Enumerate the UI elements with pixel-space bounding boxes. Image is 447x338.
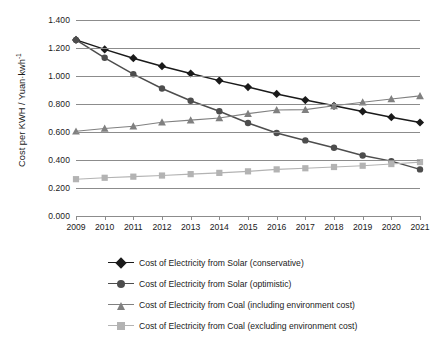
legend-marker-square-icon [108,320,134,332]
series-4 [73,159,423,182]
gridline [76,20,420,21]
x-axis-ticks [76,216,420,221]
y-axis-tick-label: 0.200 [26,183,70,193]
data-point-square [102,175,108,181]
data-point-diamond [101,45,109,53]
x-axis-tick [305,216,306,220]
y-axis-tick-label: 0.600 [26,127,70,137]
legend-marker-diamond-icon [108,257,134,269]
x-axis-tick [248,216,249,220]
y-axis-title: Cost per KWH / Yuan·kwh-1 [15,25,27,195]
data-point-diamond [416,118,424,126]
data-point-circle [73,37,79,43]
legend-item[interactable]: Cost of Electricity from Solar (conserva… [108,252,428,273]
y-axis-tick-label: 1.400 [26,15,70,25]
gridline [76,76,420,77]
gridline [76,104,420,105]
data-point-square [388,161,394,167]
data-point-diamond [215,77,223,85]
data-point-diamond [273,90,281,98]
data-point-square [159,172,165,178]
line-chart: 1.4001.2001.0000.8000.6000.4000.2000.000… [0,0,447,338]
data-point-square [302,165,308,171]
x-axis-tick [162,216,163,220]
gridline [76,160,420,161]
data-point-square [130,174,136,180]
data-point-circle [245,120,251,126]
y-axis-tick-label: 0.400 [26,155,70,165]
series-layer [76,20,420,216]
legend-label: Cost of Electricity from Solar (conserva… [139,258,304,268]
y-axis-tick-label: 0.000 [26,211,70,221]
legend-marker-circle-icon [108,278,134,290]
legend-item[interactable]: Cost of Electricity from Coal (including… [108,294,428,315]
legend-marker [117,302,125,310]
data-point-square [216,170,222,176]
data-point-diamond [158,62,166,70]
data-point-diamond [301,96,309,104]
plot-area [76,20,420,216]
x-axis-tick [391,216,392,220]
legend-marker-triangle-icon [108,299,134,311]
data-point-circle [216,108,222,114]
x-axis-tick [334,216,335,220]
x-axis-tick [219,216,220,220]
legend-item[interactable]: Cost of Electricity from Coal (excluding… [108,315,428,336]
data-point-circle [101,55,107,61]
x-axis-tick [191,216,192,220]
legend-marker [115,257,126,268]
legend-label: Cost of Electricity from Coal (including… [139,300,355,310]
y-axis-tick-labels: 1.4001.2001.0000.8000.6000.4000.2000.000 [24,20,70,216]
data-point-diamond [359,107,367,115]
y-axis-title-text: Cost per KWH / Yuan·kwh [17,59,27,167]
legend-label: Cost of Electricity from Solar (optimist… [139,279,291,289]
y-axis-tick-label: 0.800 [26,99,70,109]
data-point-circle [159,85,165,91]
data-point-circle [302,137,308,143]
y-axis-tick-label: 1.000 [26,71,70,81]
y-axis-title-exponent: -1 [15,53,22,59]
x-axis-tick [363,216,364,220]
x-axis-tick [277,216,278,220]
data-point-circle [331,145,337,151]
chart-legend: Cost of Electricity from Solar (conserva… [108,252,428,336]
data-point-triangle [416,92,424,99]
data-point-circle [417,166,423,172]
legend-label: Cost of Electricity from Coal (excluding… [139,321,357,331]
x-axis-tick-label: 2021 [400,222,440,232]
y-axis-tick-label: 1.200 [26,43,70,53]
legend-marker [117,280,125,288]
data-point-circle [359,152,365,158]
x-axis-tick [133,216,134,220]
x-axis-tick-labels: 2009201020112012201320142015201620172018… [76,222,420,236]
data-point-diamond [244,83,252,91]
data-point-square [274,166,280,172]
data-point-square [360,163,366,169]
x-axis-tick [105,216,106,220]
legend-marker [117,322,125,330]
data-point-square [188,171,194,177]
data-point-diamond [387,113,395,121]
data-point-square [73,176,79,182]
gridline [76,48,420,49]
gridline [76,132,420,133]
data-point-square [245,168,251,174]
x-axis-tick [76,216,77,220]
x-axis-tick [420,216,421,220]
data-point-square [331,164,337,170]
legend-item[interactable]: Cost of Electricity from Solar (optimist… [108,273,428,294]
data-point-diamond [129,54,137,62]
gridline [76,188,420,189]
